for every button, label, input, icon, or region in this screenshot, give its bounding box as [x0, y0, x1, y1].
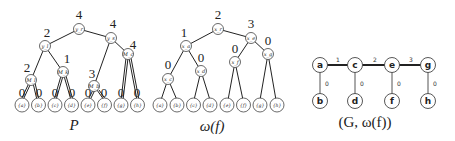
weight-x6: 0: [232, 41, 239, 56]
node-x3: x_e: [246, 33, 257, 44]
leaf-b: {b}: [32, 98, 46, 112]
svg-text:M_c: M_c: [122, 51, 134, 58]
leaf-weight: 0: [101, 85, 108, 100]
node-x2: x_a: [181, 41, 192, 52]
leaf-a: {a}: [153, 98, 167, 112]
tree-p: y_r y_l y_s M_l M_k M_b M_c 4 2 4 2: [15, 7, 145, 134]
edge-weight-cd: 0: [360, 80, 364, 87]
caption-graph: (G, ω(f)): [338, 114, 391, 131]
svg-text:y_l: y_l: [41, 43, 49, 50]
graph-g: 1 2 3 0 0 0 0 a c e g b d f h (G, ω(f)): [313, 56, 438, 132]
caption-omega: ω(f): [200, 118, 225, 135]
weight-x7: 0: [265, 33, 272, 48]
node-yr: y_r: [74, 24, 85, 35]
node-x7: x_g: [263, 49, 274, 60]
weight-m4: 4: [130, 37, 137, 52]
leaf-weight: 0: [69, 85, 76, 100]
node-m2: M_k: [57, 67, 69, 78]
svg-text:x_r: x_r: [214, 26, 222, 33]
edge-weight-ce: 2: [373, 56, 377, 63]
edge-weight-eg: 3: [409, 56, 413, 63]
svg-text:{d}: {d}: [67, 103, 76, 108]
vertex-d: d: [348, 94, 363, 109]
node-x5: x_d: [196, 66, 207, 77]
svg-text:{g}: {g}: [256, 103, 265, 108]
leaf-h: {h}: [270, 98, 284, 112]
svg-text:{b}: {b}: [34, 103, 43, 108]
vertex-g: g: [421, 58, 436, 73]
svg-text:e: e: [389, 60, 395, 70]
caption-p: P: [68, 117, 78, 133]
leaf-b: {b}: [170, 98, 184, 112]
edge-weight-ef: 0: [397, 80, 401, 87]
vertex-h: h: [421, 94, 436, 109]
leaf-f: {f}: [237, 98, 251, 112]
leaf-e: {e}: [220, 98, 234, 112]
diagram-canvas: y_r y_l y_s M_l M_k M_b M_c 4 2 4 2: [0, 0, 455, 141]
node-x4: x_c: [163, 74, 174, 85]
svg-text:{f}: {f}: [240, 103, 248, 108]
vertex-b: b: [313, 94, 328, 109]
leaf-weight: 0: [19, 85, 26, 100]
weight-x3: 3: [248, 16, 255, 31]
leaf-e: {e}: [81, 98, 95, 112]
svg-text:{f}: {f}: [101, 103, 109, 108]
svg-text:a: a: [317, 60, 323, 70]
svg-text:c: c: [352, 60, 357, 70]
node-yl: y_l: [40, 41, 51, 52]
edge-weight-ac: 1: [336, 56, 340, 63]
node-x1: x_r: [213, 24, 224, 35]
svg-text:x_a: x_a: [182, 43, 190, 50]
node-x6: x_f: [230, 57, 241, 68]
weight-ys: 4: [110, 16, 117, 31]
svg-text:{c}: {c}: [51, 103, 59, 108]
leaf-a: {a}: [15, 98, 29, 112]
vertex-f: f: [385, 94, 400, 109]
svg-text:x_c: x_c: [164, 76, 172, 83]
leaf-d: {d}: [65, 98, 79, 112]
svg-text:g: g: [425, 60, 431, 70]
leaf-d: {d}: [203, 98, 217, 112]
weight-yl: 2: [44, 25, 51, 40]
weight-yr: 4: [76, 7, 83, 22]
svg-text:y_s: y_s: [106, 35, 115, 42]
svg-text:x_g: x_g: [264, 51, 273, 58]
weight-m3: 3: [89, 66, 96, 81]
tree-omega: x_r x_a x_e x_c x_d x_f x_g 2 1 3 0 0 0 …: [153, 7, 284, 136]
edge-weight-ab: 0: [325, 80, 329, 87]
vertex-c: c: [348, 58, 363, 73]
leaf-weight: 0: [85, 85, 92, 100]
edge-weight-gh: 0: [433, 80, 437, 87]
svg-text:{g}: {g}: [117, 103, 126, 108]
leaf-g: {g}: [253, 98, 267, 112]
svg-text:{e}: {e}: [84, 103, 93, 108]
weight-x4: 0: [165, 57, 172, 72]
svg-text:{h}: {h}: [133, 103, 142, 108]
svg-text:h: h: [425, 96, 431, 106]
svg-text:x_f: x_f: [231, 59, 239, 66]
svg-text:y_r: y_r: [74, 26, 83, 33]
svg-text:d: d: [352, 96, 358, 106]
leaf-weight: 0: [118, 85, 125, 100]
leaf-c: {c}: [187, 98, 201, 112]
weight-x2: 1: [181, 25, 188, 40]
svg-text:x_e: x_e: [247, 35, 255, 42]
svg-text:M_l: M_l: [25, 77, 36, 84]
svg-text:x_d: x_d: [197, 68, 206, 75]
leaf-g: {g}: [114, 98, 128, 112]
vertex-a: a: [313, 58, 328, 73]
leaf-f: {f}: [98, 98, 112, 112]
node-ys: y_s: [106, 33, 117, 44]
svg-text:b: b: [317, 96, 324, 106]
leaf-c: {c}: [48, 98, 62, 112]
leaf-weight: 0: [134, 85, 141, 100]
leaf-h: {h}: [131, 98, 145, 112]
svg-text:{c}: {c}: [189, 103, 197, 108]
leaf-weight: 0: [52, 85, 59, 100]
svg-text:f: f: [390, 96, 394, 106]
svg-text:M_k: M_k: [57, 69, 69, 76]
svg-text:{a}: {a}: [18, 103, 27, 108]
svg-text:{e}: {e}: [223, 103, 232, 108]
svg-text:{b}: {b}: [173, 103, 182, 108]
weight-x1: 2: [215, 7, 222, 22]
